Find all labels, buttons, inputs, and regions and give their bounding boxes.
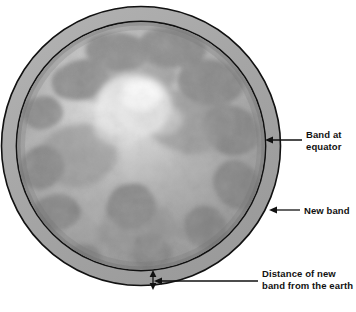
diagram-canvas: Band at equator New band Distance of new… [0,0,356,312]
distance-label-line2: band from the earth [262,280,353,291]
band-at-equator-label-line2: equator [306,141,342,152]
band-at-equator-label-line1: Band at [306,129,342,140]
earth-band-diagram: Band at equator New band Distance of new… [0,0,356,312]
new-band-label-line1: New band [304,205,350,216]
distance-label-line1: Distance of new [262,268,336,279]
